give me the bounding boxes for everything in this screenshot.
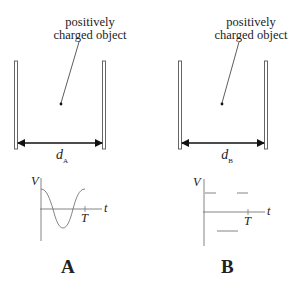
panel-a-t-axis-label: t <box>104 202 107 215</box>
panel-a-right-plate <box>103 61 106 149</box>
panel-a-distance-symbol: d <box>56 147 63 162</box>
panel-a-object-label: positively charged object <box>40 16 140 42</box>
panel-a-period-label: T <box>81 212 88 225</box>
panel-a-graph <box>40 178 102 241</box>
panel-b-plates <box>179 61 268 149</box>
panel-a-v-axis-label: V <box>31 175 39 188</box>
panel-b-period-label: T <box>244 215 251 228</box>
panel-b-object-label-line2: charged object <box>201 29 301 42</box>
panel-a-cosine-curve <box>41 189 85 228</box>
panel-b-object-label: positively charged object <box>201 16 301 42</box>
panel-b-left-plate <box>179 61 182 149</box>
diagram-canvas <box>0 0 308 291</box>
panel-a-distance-subscript: A <box>63 157 68 165</box>
panel-a-plates <box>15 61 106 149</box>
panel-b-letter: B <box>221 256 234 278</box>
panel-b-v-axis-label: V <box>193 176 201 189</box>
panel-b-right-plate <box>265 61 268 149</box>
panel-b-graph <box>203 179 265 246</box>
panel-a-letter: A <box>61 256 75 278</box>
panel-b-distance-subscript: B <box>228 157 233 165</box>
panel-a-left-plate <box>15 61 18 149</box>
panel-a-distance-label: dA <box>52 148 72 168</box>
panel-a-object-label-line2: charged object <box>40 29 140 42</box>
panel-b-t-axis-label: t <box>267 205 270 218</box>
panel-a-charged-object-dot <box>60 103 63 106</box>
panel-b-charged-object-dot <box>221 103 224 106</box>
panel-b-leader-line <box>222 42 239 103</box>
panel-a-leader-line <box>61 42 79 103</box>
panel-b-distance-label: dB <box>217 148 237 168</box>
